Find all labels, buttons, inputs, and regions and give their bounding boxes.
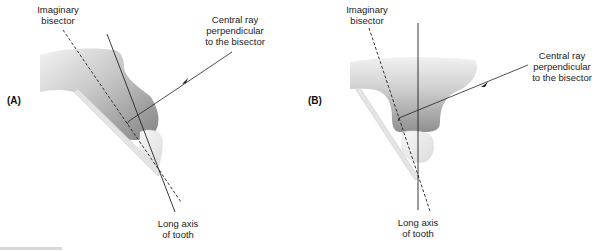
bisector-label-line2: bisector: [337, 15, 397, 26]
bisector-label-a: Imaginary bisector: [28, 4, 88, 26]
central-ray-label-line1: Central ray: [195, 14, 275, 25]
central-ray-line-a: [129, 52, 232, 121]
central-ray-label-a: Central ray perpendicular to the bisecto…: [195, 14, 275, 47]
panel-label-b: (B): [308, 95, 322, 106]
bisector-label-line2: bisector: [28, 15, 88, 26]
cropped-caption-fragment: [0, 247, 62, 250]
long-axis-label-line1: Long axis: [148, 218, 208, 229]
central-ray-label-line2: perpendicular: [522, 61, 602, 72]
long-axis-label-b: Long axis of tooth: [388, 217, 448, 239]
bisector-label-line1: Imaginary: [337, 4, 397, 15]
panel-label-a: (A): [7, 95, 21, 106]
gum-shape-a: [40, 48, 158, 140]
central-ray-label-line1: Central ray: [522, 50, 602, 61]
long-axis-label-line2: of tooth: [388, 228, 448, 239]
central-ray-label-line3: to the bisector: [522, 72, 602, 83]
long-axis-label-a: Long axis of tooth: [148, 218, 208, 240]
gum-shape-b: [350, 57, 477, 132]
bisector-label-b: Imaginary bisector: [337, 4, 397, 26]
long-axis-label-line1: Long axis: [388, 217, 448, 228]
central-ray-label-b: Central ray perpendicular to the bisecto…: [522, 50, 602, 83]
central-ray-label-line3: to the bisector: [195, 36, 275, 47]
panel-b: [350, 23, 528, 211]
bisecting-angle-diagram: [0, 0, 604, 251]
bisector-label-line1: Imaginary: [28, 4, 88, 15]
arrowhead-a: [182, 78, 188, 84]
panel-a: [40, 30, 232, 212]
long-axis-label-line2: of tooth: [148, 229, 208, 240]
central-ray-label-line2: perpendicular: [195, 25, 275, 36]
